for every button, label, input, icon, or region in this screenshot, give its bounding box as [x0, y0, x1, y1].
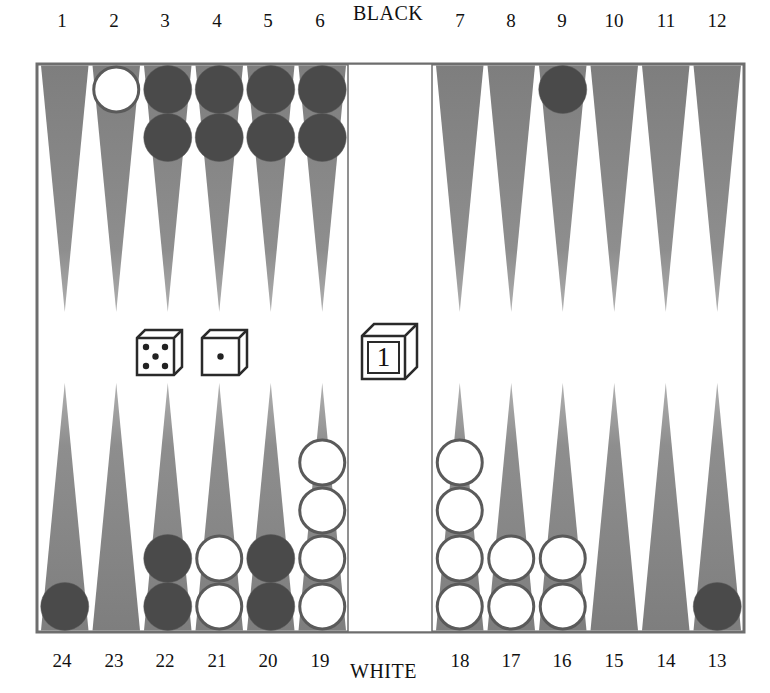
white-checker[interactable] [489, 584, 534, 629]
black-checker[interactable] [195, 114, 243, 162]
white-player-label: WHITE [350, 660, 417, 683]
point-label-13: 13 [697, 650, 737, 672]
point-label-14: 14 [646, 650, 686, 672]
pip-icon [152, 353, 158, 359]
point-label-18: 18 [440, 650, 480, 672]
white-checker[interactable] [437, 536, 482, 581]
die-one[interactable] [202, 330, 247, 375]
black-checker[interactable] [144, 66, 192, 114]
point-label-21: 21 [197, 650, 237, 672]
white-checker[interactable] [300, 536, 345, 581]
pip-icon [217, 353, 223, 359]
black-checker[interactable] [41, 583, 89, 631]
black-checker[interactable] [693, 583, 741, 631]
point-label-15: 15 [594, 650, 634, 672]
white-checker[interactable] [437, 584, 482, 629]
pip-icon [143, 363, 149, 369]
doubling-cube-value: 1 [368, 342, 399, 373]
white-checker[interactable] [197, 584, 242, 629]
black-checker[interactable] [195, 66, 243, 114]
pip-icon [162, 363, 168, 369]
black-checker[interactable] [539, 66, 587, 114]
black-checker[interactable] [247, 114, 295, 162]
black-checker[interactable] [247, 66, 295, 114]
pip-icon [162, 344, 168, 350]
black-checker[interactable] [247, 535, 295, 583]
white-checker[interactable] [540, 536, 585, 581]
pip-icon [143, 344, 149, 350]
white-checker[interactable] [300, 584, 345, 629]
point-label-22: 22 [145, 650, 185, 672]
point-label-20: 20 [248, 650, 288, 672]
white-checker[interactable] [197, 536, 242, 581]
black-checker[interactable] [298, 66, 346, 114]
point-label-19: 19 [300, 650, 340, 672]
point-label-16: 16 [542, 650, 582, 672]
die-five[interactable] [137, 330, 182, 375]
black-checker[interactable] [144, 114, 192, 162]
white-checker[interactable] [540, 584, 585, 629]
white-checker[interactable] [437, 488, 482, 533]
white-checker[interactable] [94, 67, 139, 112]
point-label-23: 23 [94, 650, 134, 672]
white-checker[interactable] [489, 536, 534, 581]
white-checker[interactable] [300, 440, 345, 485]
white-checker[interactable] [437, 440, 482, 485]
black-checker[interactable] [247, 583, 295, 631]
white-checker[interactable] [300, 488, 345, 533]
black-checker[interactable] [144, 583, 192, 631]
black-checker[interactable] [144, 535, 192, 583]
black-checker[interactable] [298, 114, 346, 162]
point-label-24: 24 [42, 650, 82, 672]
point-label-17: 17 [491, 650, 531, 672]
